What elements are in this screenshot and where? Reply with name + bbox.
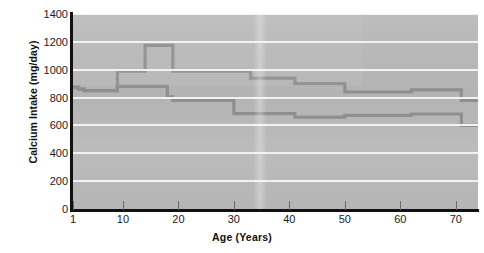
x-tick-label: 60 [383, 213, 417, 225]
gridline [73, 41, 478, 43]
x-tick-mark [289, 201, 290, 210]
gridline [73, 97, 478, 99]
x-tick-label: 30 [217, 213, 251, 225]
gridline [73, 14, 478, 15]
x-tick-mark [400, 201, 401, 210]
y-tick-label: 600 [26, 120, 68, 130]
y-tick-label: 1000 [26, 65, 68, 75]
x-tick-mark [234, 201, 235, 210]
x-tick-mark [73, 201, 74, 210]
x-axis-line [70, 209, 479, 212]
series-lower-curve [73, 86, 478, 125]
plot-area [73, 14, 478, 209]
x-tick-label: 1 [56, 213, 90, 225]
x-tick-mark [178, 201, 179, 210]
series-upper-curve [73, 45, 478, 100]
gridline [73, 69, 478, 71]
x-tick-mark [123, 201, 124, 210]
x-tick-label: 50 [328, 213, 362, 225]
chart-figure: Calcium Intake (mg/day) 0200400600800100… [0, 0, 484, 253]
gridline [73, 180, 478, 182]
y-tick-label: 400 [26, 148, 68, 158]
x-axis-title: Age (Years) [0, 231, 484, 243]
x-tick-label: 20 [161, 213, 195, 225]
gridline [73, 124, 478, 126]
x-tick-mark [456, 201, 457, 210]
x-tick-mark [345, 201, 346, 210]
y-axis-line [70, 12, 73, 211]
y-tick-label: 800 [26, 93, 68, 103]
gridline [73, 152, 478, 154]
y-tick-label: 1400 [26, 9, 68, 19]
x-tick-label: 10 [106, 213, 140, 225]
x-tick-label: 40 [272, 213, 306, 225]
x-tick-label: 70 [439, 213, 473, 225]
y-tick-label: 1200 [26, 37, 68, 47]
y-tick-label: 200 [26, 176, 68, 186]
